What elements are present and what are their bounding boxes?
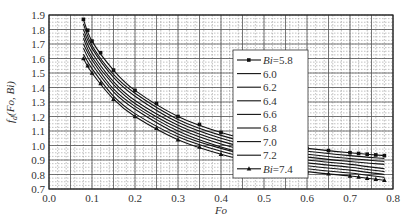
y-tick-label: 1.6 [31,53,45,65]
y-tick-label: 1.2 [31,111,45,123]
y-tick-label: 0.8 [31,169,45,181]
legend-label: 6.4 [263,95,277,107]
legend-label: 7.2 [263,149,277,161]
square-marker [155,102,159,106]
square-marker [219,131,223,135]
y-axis-label: fd(Fo, Bi) [4,81,19,123]
legend-label: 6.2 [263,81,277,93]
square-marker [348,151,352,155]
y-tick-label: 1.3 [31,96,45,108]
y-tick-label: 1.1 [31,125,45,137]
y-tick-label: 1.5 [31,67,45,79]
square-marker [99,51,103,55]
x-tick-label: 0.8 [386,192,400,204]
y-tick-label: 1.8 [31,24,45,36]
square-marker [383,154,387,158]
y-tick-label: 1.9 [31,9,45,21]
legend-label: 6.8 [263,122,277,134]
x-tick-label: 0.0 [42,192,56,204]
square-marker [327,149,331,153]
square-marker [176,115,180,119]
x-tick-label: 0.3 [171,192,185,204]
chart: 0.70.80.91.01.11.21.31.41.51.61.71.81.9 … [0,0,418,222]
x-axis-label: Fo [214,204,228,216]
legend-label: 6.0 [263,68,277,80]
x-tick-labels: 0.00.10.20.30.40.50.60.70.8 [42,192,400,204]
y-tick-label: 1.0 [31,140,45,152]
square-marker [357,152,361,156]
x-tick-label: 0.5 [257,192,271,204]
legend-label: Bi=5.8 [263,54,293,66]
y-tick-label: 1.7 [31,38,45,50]
x-tick-label: 0.6 [300,192,314,204]
square-marker [112,68,116,72]
square-marker [374,153,378,157]
square-marker [365,152,369,156]
square-marker [82,18,86,22]
legend-label: Bi=7.4 [263,163,293,175]
square-marker [198,123,202,127]
legend-label: 7.0 [263,136,277,148]
square-marker [247,58,251,62]
x-tick-label: 0.2 [128,192,142,204]
x-tick-label: 0.4 [214,192,228,204]
x-tick-label: 0.7 [343,192,357,204]
y-tick-labels: 0.70.80.91.01.11.21.31.41.51.61.71.81.9 [31,9,45,195]
x-tick-label: 0.1 [85,192,99,204]
legend: Bi=5.86.06.26.46.66.87.07.2Bi=7.4 [233,50,308,178]
legend-label: 6.6 [263,108,277,120]
y-tick-label: 0.9 [31,154,45,166]
y-tick-label: 1.4 [31,82,45,94]
square-marker [133,89,137,93]
